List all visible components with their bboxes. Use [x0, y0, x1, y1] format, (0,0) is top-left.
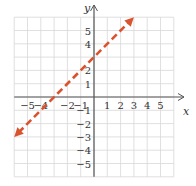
arrowhead-up-icon: [124, 17, 134, 27]
x-tick-label: 1: [104, 100, 110, 111]
y-tick-label: 4: [85, 39, 91, 50]
y-tick-label: −4: [76, 145, 91, 156]
y-axis-label: y: [83, 2, 91, 15]
y-tick-label: −1: [76, 105, 91, 116]
x-tick-label: 2: [117, 100, 123, 111]
line-series: [14, 17, 134, 137]
y-tick-label: 5: [85, 26, 91, 37]
y-tick-label: 1: [85, 79, 91, 90]
x-tick-label: 5: [157, 100, 163, 111]
x-tick-label: 4: [144, 100, 150, 111]
coordinate-plane: −5−4−2−1123455421−1−2−3−4−5 x y: [0, 0, 196, 186]
y-tick-label: −2: [76, 119, 91, 130]
x-tick-label: 3: [131, 100, 137, 111]
x-axis-label: x: [183, 105, 190, 118]
y-tick-label: −3: [76, 132, 91, 143]
dashed-line: [18, 21, 129, 132]
y-tick-label: −5: [76, 159, 91, 170]
